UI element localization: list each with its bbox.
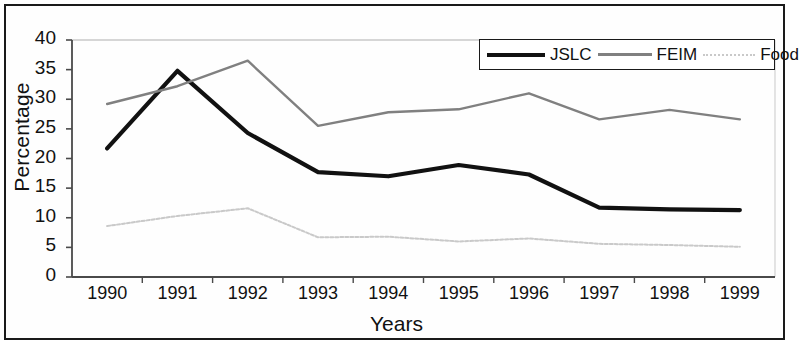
legend-line-food-icon xyxy=(703,54,755,56)
series-line-jslc xyxy=(107,71,740,210)
legend-label-jslc: JSLC xyxy=(550,45,592,65)
chart-legend: JSLC FEIM Food xyxy=(479,39,775,70)
legend-item-jslc: JSLC xyxy=(487,45,598,65)
legend-item-feim: FEIM xyxy=(598,45,704,65)
legend-line-feim-icon xyxy=(598,53,652,56)
legend-label-feim: FEIM xyxy=(657,45,698,65)
series-line-food xyxy=(107,208,740,247)
legend-line-jslc-icon xyxy=(487,53,545,57)
legend-item-food: Food xyxy=(703,45,803,65)
legend-label-food: Food xyxy=(760,45,799,65)
